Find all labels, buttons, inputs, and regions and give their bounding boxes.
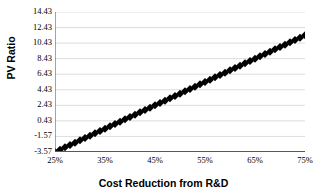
x-tick-label: 55% bbox=[185, 155, 225, 165]
data-series-markers bbox=[55, 31, 305, 152]
x-axis-tick-labels: 25%35%45%55%65%75% bbox=[0, 155, 327, 169]
pv-ratio-chart: PV Ratio 14.4312.4310.438.436.434.432.43… bbox=[0, 0, 327, 196]
y-tick-label: 12.43 bbox=[16, 23, 52, 32]
plot-area bbox=[55, 12, 305, 152]
plot-svg bbox=[55, 12, 305, 152]
y-tick-label: 4.43 bbox=[16, 85, 52, 94]
y-tick-label: -1.57 bbox=[16, 131, 52, 140]
x-tick-label: 75% bbox=[285, 155, 325, 165]
x-tick-label: 25% bbox=[35, 155, 75, 165]
gridlines bbox=[55, 12, 305, 152]
x-axis-title: Cost Reduction from R&D bbox=[0, 177, 327, 189]
y-tick-label: 8.43 bbox=[16, 54, 52, 63]
x-tick-label: 65% bbox=[235, 155, 275, 165]
y-tick-label: 0.43 bbox=[16, 116, 52, 125]
x-tick-label: 35% bbox=[85, 155, 125, 165]
y-tick-label: 2.43 bbox=[16, 100, 52, 109]
y-tick-label: 14.43 bbox=[16, 7, 52, 16]
x-tick-label: 45% bbox=[135, 155, 175, 165]
y-tick-label: 6.43 bbox=[16, 69, 52, 78]
y-tick-label: 10.43 bbox=[16, 38, 52, 47]
